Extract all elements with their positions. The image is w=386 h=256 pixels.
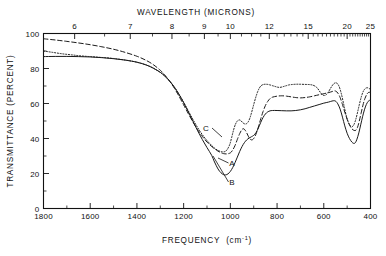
top-axis-tick-labels: 67891012152025 — [72, 22, 375, 31]
y-axis-tick-label: 40 — [30, 135, 40, 144]
curve-annotations: ABC — [203, 124, 235, 187]
top-axis-tick-label: 15 — [304, 22, 314, 31]
ir-spectrum-figure: WAVELENGTH (MICRONS) 67891012152025 0204… — [0, 0, 386, 256]
top-axis-tick-label: 10 — [226, 22, 236, 31]
top-axis-tick-label: 9 — [202, 22, 207, 31]
x-axis-tick-labels: 18001600140012001000800600400 — [34, 212, 378, 221]
spectrum-curves — [44, 39, 371, 175]
chart-canvas: WAVELENGTH (MICRONS) 67891012152025 0204… — [0, 0, 386, 256]
x-axis-title: FREQUENCY(cm-1) — [162, 235, 252, 245]
annotation-leader-c — [212, 128, 222, 137]
y-axis-title: TRANSMITTANCE (PERCENT) — [6, 54, 15, 187]
plot-frame — [44, 34, 371, 209]
curve-label-a: A — [229, 159, 235, 168]
x-axis-tick-label: 1600 — [81, 212, 100, 221]
x-axis-tick-label: 600 — [317, 212, 331, 221]
annotation-leader-a — [218, 158, 229, 163]
x-axis-title-unit-open: (cm — [226, 236, 242, 245]
x-axis-tick-label: 1400 — [128, 212, 147, 221]
x-axis-tick-label: 1000 — [221, 212, 240, 221]
x-axis-tick-label: 1200 — [174, 212, 193, 221]
svg-text:FREQUENCY(cm-1): FREQUENCY(cm-1) — [162, 235, 252, 245]
top-axis-tick-label: 20 — [342, 22, 352, 31]
y-axis-ticks — [44, 34, 50, 209]
x-axis-title-unit-close: ) — [249, 236, 252, 245]
top-axis-tick-label: 7 — [128, 22, 133, 31]
y-axis-tick-label: 20 — [30, 170, 40, 179]
annotation-leader-b — [213, 156, 229, 182]
spectrum-curve-a — [44, 39, 371, 154]
curve-label-b: B — [229, 178, 234, 187]
curve-label-c: C — [203, 124, 209, 133]
y-axis-tick-label: 80 — [30, 65, 40, 74]
spectrum-curve-b — [44, 56, 371, 175]
x-axis-tick-label: 1800 — [34, 212, 53, 221]
x-axis-ticks — [44, 203, 371, 209]
x-axis-tick-label: 400 — [364, 212, 378, 221]
x-axis-title-main: FREQUENCY — [162, 236, 220, 245]
top-axis-tick-label: 6 — [72, 22, 77, 31]
x-axis-tick-label: 800 — [270, 212, 284, 221]
top-axis-tick-label: 8 — [170, 22, 175, 31]
top-axis-tick-label: 25 — [366, 22, 376, 31]
top-axis-ticks — [75, 34, 371, 40]
y-axis-tick-label: 60 — [30, 100, 40, 109]
y-axis-tick-labels: 020406080100 — [26, 30, 40, 214]
spectrum-curve-c — [44, 51, 371, 152]
y-axis-tick-label: 100 — [26, 30, 40, 39]
top-axis-tick-label: 12 — [265, 22, 275, 31]
top-axis-title: WAVELENGTH (MICRONS) — [137, 8, 255, 17]
